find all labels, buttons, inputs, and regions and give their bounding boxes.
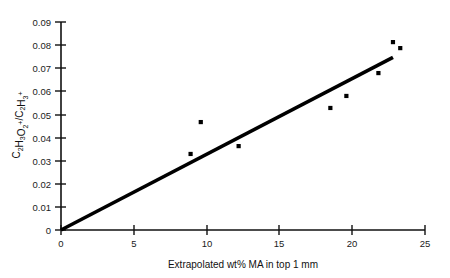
x-tick-labels: 0 5 10 15 20 25 [58,238,430,249]
data-point [376,71,380,75]
y-tick-label: 0.06 [33,86,52,97]
data-point [328,106,332,110]
y-tick-label: 0 [46,225,51,236]
y-tick-label: 0.07 [33,63,52,74]
y-tick-label: 0.05 [33,110,52,121]
x-axis-title: Extrapolated wt% MA in top 1 mm [168,259,318,270]
x-tick-label: 5 [131,238,136,249]
x-tick-label: 0 [58,238,63,249]
svg-text:C2H3O2+/C2H3+: C2H3O2+/C2H3+ [11,91,29,158]
y-axis-title: C2H3O2+/C2H3+ [11,91,29,158]
x-tick-label: 15 [274,238,285,249]
data-point [199,120,203,124]
data-point [237,144,241,148]
y-tick-label: 0.02 [33,179,52,190]
data-point [188,152,192,156]
x-tick-label: 20 [347,238,358,249]
scatter-plot: 0.09 0.08 0.07 0.06 0.05 0.04 0.03 0.02 … [0,0,450,278]
data-point [344,94,348,98]
figure-container: 0.09 0.08 0.07 0.06 0.05 0.04 0.03 0.02 … [0,0,450,278]
y-tick-label: 0.04 [33,133,52,144]
y-tick-label: 0.08 [33,40,52,51]
data-points-group [188,40,402,156]
y-tick-labels: 0.09 0.08 0.07 0.06 0.05 0.04 0.03 0.02 … [33,17,52,236]
x-tick-label: 10 [202,238,213,249]
fit-line [61,57,393,230]
y-tick-label: 0.09 [33,17,52,28]
x-tick-label: 25 [420,238,431,249]
data-point [398,46,402,50]
y-tick-label: 0.01 [33,202,52,213]
y-tick-label: 0.03 [33,156,52,167]
data-point [391,40,395,44]
